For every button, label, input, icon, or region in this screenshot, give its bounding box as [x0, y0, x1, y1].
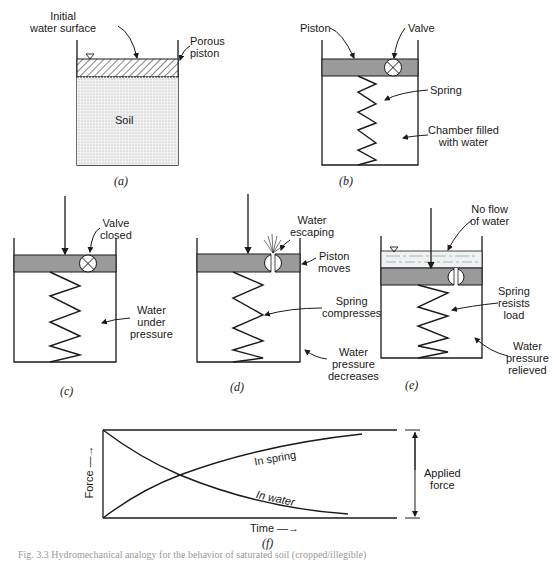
label-chamber: Chamber filled with water — [428, 124, 499, 148]
water-level-icon — [86, 54, 94, 59]
label-water-pressure-decreases: Water pressure decreases — [328, 346, 379, 382]
label-no-flow: No flow of water — [470, 203, 509, 227]
label-line: Water — [328, 346, 379, 358]
label-water-escaping: Water escaping — [290, 214, 334, 238]
label-line: moves — [318, 262, 350, 274]
water-spray-icon — [264, 234, 284, 253]
label-line: Initial — [30, 10, 96, 22]
label-line: pressure — [130, 328, 173, 340]
label-line: of water — [470, 215, 509, 227]
label-line: piston — [190, 47, 225, 59]
spring — [358, 76, 376, 165]
label-piston-moves: Piston moves — [318, 250, 350, 274]
spring — [418, 285, 448, 358]
label-porous-piston: Porous piston — [190, 35, 225, 59]
label-line: pressure — [328, 358, 379, 370]
label-line: compresses — [322, 307, 381, 319]
spring-force-curve — [103, 434, 362, 518]
panel-a — [77, 26, 190, 165]
label-line: Porous — [190, 35, 225, 47]
piston — [14, 255, 116, 272]
label-line: closed — [100, 229, 132, 241]
piston — [197, 254, 300, 272]
label-line: resists — [498, 297, 530, 309]
panel-f-chart — [103, 430, 420, 518]
open-valve-icon — [448, 268, 464, 286]
label-soil: Soil — [115, 114, 133, 126]
label-line: escaping — [290, 226, 334, 238]
label-line: Chamber filled — [428, 124, 499, 136]
label-line: pressure — [506, 352, 549, 364]
spring — [50, 272, 80, 362]
water-force-curve — [103, 430, 348, 514]
label-line: No flow — [470, 203, 509, 215]
label-line: Spring — [322, 295, 381, 307]
caption-b: (b) — [339, 174, 353, 189]
label-line: Valve — [100, 217, 132, 229]
label-piston: Piston — [300, 22, 331, 34]
panel-b — [322, 28, 428, 165]
label-line: with water — [428, 136, 499, 148]
spring — [233, 272, 263, 362]
valve-closed-icon — [80, 255, 97, 272]
label-water-under-pressure: Water under pressure — [130, 304, 173, 340]
label-line: load — [498, 309, 530, 321]
label-line: Spring — [498, 285, 530, 297]
label-line: decreases — [328, 370, 379, 382]
piston — [322, 59, 418, 76]
caption-c: (c) — [60, 384, 73, 399]
label-valve: Valve — [408, 22, 435, 34]
porous-piston — [77, 59, 178, 77]
label-line: relieved — [506, 364, 549, 376]
label-force-axis: Force —→ — [83, 445, 95, 498]
label-line: Water — [506, 340, 549, 352]
label-spring: Spring — [430, 84, 462, 96]
label-time-axis: Time —→ — [250, 522, 299, 534]
label-line: Piston — [318, 250, 350, 262]
label-initial-water-surface: Initial water surface — [30, 10, 96, 34]
label-line: Water — [290, 214, 334, 226]
label-line: water surface — [30, 22, 96, 34]
label-line: force — [424, 479, 461, 491]
label-line: Water — [130, 304, 173, 316]
piston — [381, 268, 482, 285]
caption-d: (d) — [230, 380, 244, 395]
label-water-pressure-relieved: Water pressure relieved — [506, 340, 549, 376]
valve-icon — [385, 59, 402, 76]
label-valve-closed: Valve closed — [100, 217, 132, 241]
label-line: Applied — [424, 467, 461, 479]
label-spring-compresses: Spring compresses — [322, 295, 381, 319]
label-line: under — [130, 316, 173, 328]
label-spring-resists-load: Spring resists load — [498, 285, 530, 321]
label-applied-force: Applied force — [424, 467, 461, 491]
panel-e — [381, 208, 508, 358]
caption-e: (e) — [405, 378, 418, 393]
caption-a: (a) — [114, 174, 128, 189]
figure-caption: Fig. 3.3 Hydromechanical analogy for the… — [18, 549, 366, 560]
